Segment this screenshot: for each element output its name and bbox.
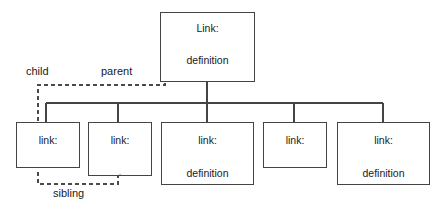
node-child-4[interactable]: link:	[263, 122, 327, 168]
node-child-3[interactable]: link: definition	[161, 122, 254, 185]
node-child-5[interactable]: link: definition	[337, 122, 430, 185]
node-child-1-title: link:	[39, 135, 58, 146]
node-child-4-title: link:	[286, 135, 305, 146]
diagram-canvas: Link: definition link: link: . link: def…	[0, 0, 444, 206]
edge-label-parent: parent	[101, 66, 132, 77]
node-child-3-definition: definition	[186, 168, 228, 179]
edge-label-sibling: sibling	[53, 188, 84, 199]
node-root-title: Link:	[196, 23, 218, 34]
node-child-2-title: link:	[111, 135, 130, 146]
node-child-2[interactable]: link: .	[88, 122, 152, 176]
node-root[interactable]: Link: definition	[160, 12, 255, 82]
node-child-2-tick: .	[119, 166, 122, 177]
edge-label-child: child	[26, 66, 49, 77]
node-child-3-title: link:	[198, 135, 217, 146]
node-child-5-title: link:	[374, 135, 393, 146]
node-root-definition: definition	[186, 55, 228, 66]
node-child-1[interactable]: link:	[16, 122, 80, 168]
node-child-5-definition: definition	[362, 168, 404, 179]
